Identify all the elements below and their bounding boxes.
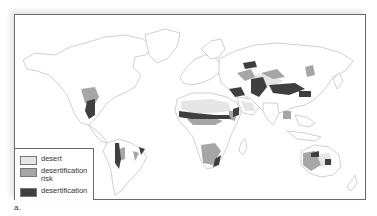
map-frame: desert desertification risk desertificat… — [14, 14, 366, 200]
desert-swatch — [20, 156, 37, 165]
europe — [180, 55, 221, 85]
indonesia — [287, 131, 321, 141]
map-legend: desert desertification risk desertificat… — [15, 148, 94, 200]
legend-item-desertification: desertification — [20, 187, 87, 197]
legend-item-desert: desert — [20, 155, 62, 165]
india — [263, 103, 279, 125]
legend-label: desertification risk — [41, 167, 87, 183]
legend-item-risk: desertification risk — [20, 167, 87, 183]
legend-label: desertification — [41, 187, 87, 195]
new-zealand — [347, 175, 357, 191]
risk-swatch — [20, 168, 37, 177]
greenland — [145, 29, 180, 63]
central-america — [89, 125, 107, 143]
figure-caption: a. — [14, 203, 21, 212]
legend-label-line2: risk — [41, 174, 53, 183]
madagascar — [239, 139, 247, 155]
southeast-asia — [295, 115, 315, 127]
desertification-swatch — [20, 188, 37, 197]
legend-label: desert — [41, 155, 62, 163]
